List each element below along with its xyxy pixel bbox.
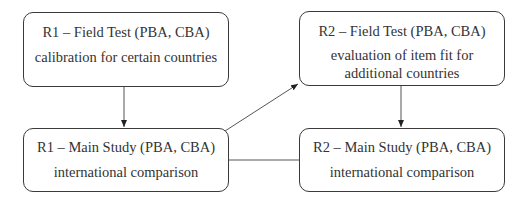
node-title: R2 – Main Study (PBA, CBA) [300,138,504,156]
node-r2-main-study: R2 – Main Study (PBA, CBA) international… [299,128,505,192]
node-r1-main-study: R1 – Main Study (PBA, CBA) international… [23,128,229,192]
node-description: international comparison [24,163,228,181]
node-title: R1 – Main Study (PBA, CBA) [24,138,228,156]
arrow-r1-main-to-r2-field [225,84,298,131]
node-title: R1 – Field Test (PBA, CBA) [24,23,228,41]
node-description-line1: evaluation of item fit for [300,46,504,64]
flow-diagram: R1 – Field Test (PBA, CBA) calibration f… [0,0,524,201]
node-r2-field-test: R2 – Field Test (PBA, CBA) evaluation of… [299,11,505,86]
node-r1-field-test: R1 – Field Test (PBA, CBA) calibration f… [23,12,229,87]
node-title: R2 – Field Test (PBA, CBA) [300,22,504,40]
node-description: international comparison [300,163,504,181]
node-description-line2: additional countries [300,64,504,82]
node-description: calibration for certain countries [24,48,228,66]
